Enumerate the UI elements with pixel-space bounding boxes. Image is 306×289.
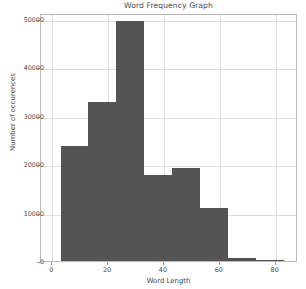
histogram-bar <box>88 102 116 261</box>
x-tick-label: 0 <box>39 266 63 274</box>
x-tick-label: 80 <box>263 266 287 274</box>
x-tick-mark <box>219 262 220 265</box>
x-tick-label: 40 <box>151 266 175 274</box>
histogram-bar <box>61 146 89 261</box>
chart-figure: Word Frequency Graph 0100002000030000400… <box>0 0 306 289</box>
x-tick-mark <box>275 262 276 265</box>
x-tick-mark <box>163 262 164 265</box>
y-tick-label: 10000 <box>4 210 44 218</box>
x-tick-mark <box>51 262 52 265</box>
y-tick-label: 0 <box>4 258 44 266</box>
x-axis-label: Word Length <box>40 277 297 285</box>
histogram-bar <box>116 21 144 261</box>
bar-series <box>41 15 296 261</box>
y-axis-label: Number of occurences <box>9 47 17 177</box>
x-tick-label: 20 <box>95 266 119 274</box>
x-tick-mark <box>107 262 108 265</box>
histogram-bar <box>200 208 228 261</box>
histogram-bar <box>256 260 284 261</box>
chart-title: Word Frequency Graph <box>40 1 297 10</box>
histogram-bar <box>172 168 200 261</box>
plot-area <box>40 14 297 262</box>
x-tick-label: 60 <box>207 266 231 274</box>
histogram-bar <box>228 258 256 261</box>
histogram-bar <box>144 175 172 261</box>
y-tick-label: 50000 <box>4 16 44 24</box>
